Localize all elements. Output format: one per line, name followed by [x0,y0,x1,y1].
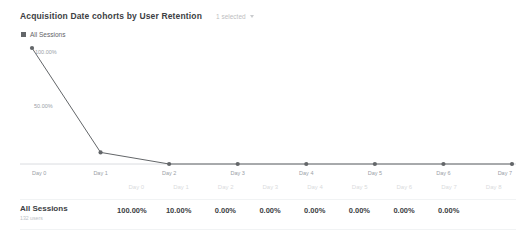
table-column-header[interactable]: Day 0 [114,184,159,190]
x-axis-tick-label: Day 1 [93,170,107,176]
table-column-header[interactable]: Day 4 [293,184,338,190]
chart-header: Acquisition Date cohorts by User Retenti… [20,8,515,24]
table-cell-value: 100.00% [114,204,159,215]
table-cell-value: 0.00% [382,204,427,215]
x-axis-tick-label: Day 0 [32,170,46,176]
table-cell-value: 0.00% [248,204,293,215]
x-axis-tick-labels: Day 0Day 1Day 2Day 3Day 4Day 5Day 6Day 7 [20,170,516,182]
x-axis-tick-label: Day 2 [162,170,176,176]
table-row-label-cell: All Sessions 132 users [20,204,114,222]
table-header-row: Day 0Day 1Day 2Day 3Day 4Day 5Day 6Day 7… [20,184,516,199]
x-axis-tick-label: Day 6 [436,170,450,176]
chart-plot-area: 50.00%100.00% [20,42,516,172]
x-axis-tick-label: Day 4 [299,170,313,176]
table-cell-value: 0.00% [337,204,382,215]
table-cell-value [471,204,516,206]
table-cell-value: 0.00% [427,204,472,215]
row-subtitle: 132 users [20,214,114,222]
chart-title: Acquisition Date cohorts by User Retenti… [20,11,202,21]
retention-line-chart[interactable] [20,42,516,172]
cohort-data-table: Day 0Day 1Day 2Day 3Day 4Day 5Day 6Day 7… [20,184,516,230]
x-axis-tick-label: Day 5 [368,170,382,176]
chevron-down-icon [250,15,254,18]
table-row[interactable]: All Sessions 132 users 100.00%10.00%0.00… [20,199,516,230]
chart-legend: All Sessions [21,31,65,38]
table-column-header[interactable]: Day 5 [337,184,382,190]
y-axis-tick-label: 50.00% [34,103,53,109]
table-column-header[interactable]: Day 6 [382,184,427,190]
table-column-header[interactable]: Day 1 [159,184,204,190]
table-column-header[interactable]: Day 3 [248,184,293,190]
data-point-label: 100.00% [35,49,57,55]
metric-select-label: 1 selected [216,13,246,20]
table-column-header[interactable]: Day 8 [471,184,516,190]
table-cell-value: 0.00% [203,204,248,215]
legend-item-label: All Sessions [30,31,65,38]
table-column-header[interactable]: Day 2 [203,184,248,190]
row-title: All Sessions [20,204,114,214]
table-cell-value: 0.00% [293,204,338,215]
metric-select-dropdown[interactable]: 1 selected [216,13,254,20]
x-axis-tick-label: Day 7 [498,170,512,176]
square-swatch-icon [21,32,26,37]
table-column-header[interactable]: Day 7 [427,184,472,190]
cohort-retention-report: Acquisition Date cohorts by User Retenti… [0,0,529,233]
table-cell-value: 10.00% [159,204,204,215]
x-axis-tick-label: Day 3 [231,170,245,176]
